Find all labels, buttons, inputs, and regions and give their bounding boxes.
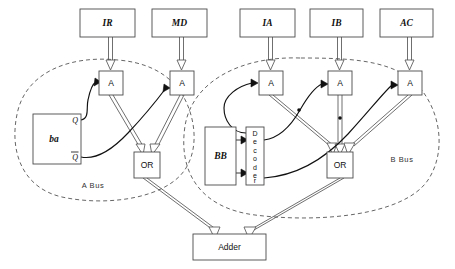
conn-ia-to-a3 — [266, 37, 275, 70]
register-ia[interactable]: IA — [240, 9, 295, 37]
or-gate-b[interactable]: OR — [327, 152, 353, 178]
conn-or-a-to-adder — [143, 178, 220, 239]
register-ac-label: AC — [399, 18, 413, 28]
decoder-letter-2: c — [253, 147, 257, 154]
junction-dot-b5 — [338, 116, 342, 120]
decoder-letter-4: d — [253, 164, 257, 171]
conn-md-to-a2 — [177, 37, 186, 70]
flipflop-ba-label: ba — [49, 134, 59, 144]
flipflop-qbar-label: Q — [72, 153, 78, 162]
or-gate-a[interactable]: OR — [134, 152, 160, 178]
flipflop-ba[interactable]: ba Q Q — [33, 114, 81, 164]
register-ib[interactable]: IB — [310, 9, 363, 37]
or-gate-b-label: OR — [334, 160, 347, 170]
or-gate-a-label: OR — [141, 160, 154, 170]
register-bb-label: BB — [213, 151, 227, 161]
decoder-letter-3: o — [253, 155, 257, 162]
flipflop-q-label: Q — [72, 116, 78, 125]
a-bus-label: A Bus — [82, 181, 105, 190]
conn-q-to-a1 — [81, 78, 101, 120]
register-ac[interactable]: AC — [380, 9, 433, 37]
conn-or-b-to-adder — [244, 178, 344, 239]
junction-dot-b4 — [297, 108, 301, 112]
and-gate-a3[interactable]: A — [259, 71, 283, 95]
and-gate-a4-label: A — [337, 78, 343, 88]
conn-decoder-to-a3 — [224, 79, 258, 133]
conn-a5-to-or-b — [344, 95, 412, 155]
and-gate-a2[interactable]: A — [170, 71, 194, 95]
conn-ib-to-a4 — [335, 37, 344, 70]
decoder-box[interactable]: D e c o d e r — [246, 127, 264, 185]
decoder-letter-0: D — [252, 130, 257, 137]
and-gate-a5[interactable]: A — [398, 71, 422, 95]
register-ib-label: IB — [330, 18, 341, 28]
register-bb[interactable]: BB — [205, 127, 236, 185]
b-bus-label: B Bus — [390, 155, 413, 164]
register-ir-label: IR — [101, 18, 112, 28]
and-gate-a2-label: A — [179, 78, 185, 88]
register-ir[interactable]: IR — [80, 9, 135, 37]
decoder-letter-1: e — [253, 138, 257, 145]
register-md-label: MD — [171, 18, 187, 28]
register-ia-label: IA — [261, 18, 272, 28]
datapath-diagram: A Bus B Bus — [0, 0, 455, 269]
diagram-canvas: A Bus B Bus — [0, 0, 455, 269]
and-gate-a1-label: A — [108, 78, 114, 88]
conn-ac-to-a5 — [405, 37, 414, 70]
adder-box[interactable]: Adder — [193, 234, 266, 260]
conn-ir-to-a1 — [106, 37, 115, 70]
adder-label: Adder — [218, 242, 241, 252]
and-gate-a3-label: A — [268, 78, 274, 88]
and-gate-a4[interactable]: A — [328, 71, 352, 95]
register-md[interactable]: MD — [152, 9, 207, 37]
and-gate-a5-label: A — [407, 78, 413, 88]
and-gate-a1[interactable]: A — [99, 71, 123, 95]
conn-a2-to-or-a — [150, 95, 184, 155]
